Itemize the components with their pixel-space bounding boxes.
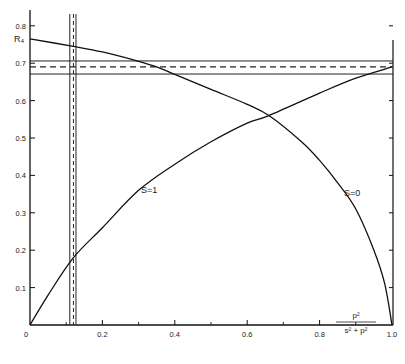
x-axis-label-numerator: p² (352, 311, 359, 320)
curves (30, 39, 392, 325)
x-axis-label-denominator: s² + p² (345, 326, 368, 335)
curve-s0 (30, 39, 392, 325)
axes: 0.10.20.30.40.50.60.70.800.20.40.60.81.0 (16, 10, 398, 339)
curve-s1 (30, 67, 392, 325)
x-tick-label: 0 (24, 330, 28, 339)
chart: 0.10.20.30.40.50.60.70.800.20.40.60.81.0… (0, 0, 405, 364)
curve-label-s0: S=0 (344, 188, 360, 198)
x-tick-label: 0.4 (170, 330, 180, 339)
chart-svg: 0.10.20.30.40.50.60.70.800.20.40.60.81.0… (0, 0, 405, 364)
y-tick-label: 0.2 (16, 246, 26, 255)
y-tick-label: 0.4 (16, 171, 26, 180)
y-tick-label: 0.5 (16, 134, 26, 143)
y-tick-label: 0.7 (16, 59, 26, 68)
x-tick-label: 0.6 (242, 330, 252, 339)
y-tick-label: 0.6 (16, 97, 26, 106)
x-tick-label: 0.2 (97, 330, 107, 339)
x-tick-label: 1.0 (387, 330, 397, 339)
x-tick-label: 0.8 (314, 330, 324, 339)
error-bands (30, 14, 393, 325)
y-axis-label: R₄ (14, 34, 24, 44)
y-tick-label: 0.8 (16, 22, 26, 31)
labels: R₄ p² s² + p² S=1 S=0 (14, 34, 376, 335)
y-tick-label: 0.1 (16, 284, 26, 293)
curve-label-s1: S=1 (141, 185, 157, 195)
y-tick-label: 0.3 (16, 209, 26, 218)
